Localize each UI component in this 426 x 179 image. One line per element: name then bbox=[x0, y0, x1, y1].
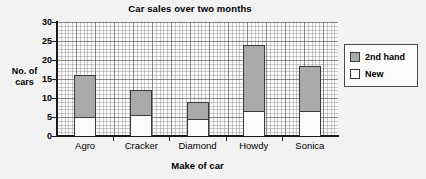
legend-item-2nd-hand[interactable]: 2nd hand bbox=[350, 50, 413, 64]
bar-segment-second-hand-diamond bbox=[187, 102, 209, 119]
x-tick-label-diamond: Diamond bbox=[170, 140, 226, 152]
y-tick-label-0: 0 bbox=[32, 132, 52, 141]
y-tick-label-10: 10 bbox=[32, 94, 52, 103]
y-tick-label-20: 20 bbox=[32, 56, 52, 65]
bar-stack bbox=[299, 66, 321, 136]
bar-group-diamond bbox=[187, 22, 209, 136]
x-tick-mark-4 bbox=[282, 137, 283, 141]
x-tick-mark-3 bbox=[226, 137, 227, 141]
x-tick-label-howdy: Howdy bbox=[226, 140, 282, 152]
legend-label: New bbox=[365, 69, 384, 79]
bar-group-cracker bbox=[130, 22, 152, 136]
bar-stack bbox=[74, 75, 96, 136]
y-tick-mark-5 bbox=[52, 117, 57, 118]
x-tick-mark-1 bbox=[113, 137, 114, 141]
x-axis-title: Make of car bbox=[57, 160, 338, 171]
y-tick-mark-20 bbox=[52, 60, 57, 61]
bar-segment-new-cracker bbox=[130, 115, 152, 136]
legend-swatch-icon bbox=[350, 69, 360, 79]
y-tick-mark-15 bbox=[52, 79, 57, 80]
bar-stack bbox=[243, 45, 265, 136]
bar-segment-new-diamond bbox=[187, 119, 209, 136]
y-tick-label-25: 25 bbox=[32, 37, 52, 46]
legend: 2nd handNew bbox=[344, 44, 418, 87]
bar-segment-second-hand-agro bbox=[74, 75, 96, 117]
bar-segment-second-hand-cracker bbox=[130, 90, 152, 115]
x-tick-label-sonica: Sonica bbox=[282, 140, 338, 152]
y-tick-mark-25 bbox=[52, 41, 57, 42]
bar-segment-second-hand-sonica bbox=[299, 66, 321, 112]
bar-segment-new-agro bbox=[74, 117, 96, 136]
legend-item-new[interactable]: New bbox=[350, 67, 413, 81]
y-tick-label-30: 30 bbox=[32, 18, 52, 27]
legend-label: 2nd hand bbox=[365, 52, 405, 62]
bar-segment-second-hand-howdy bbox=[243, 45, 265, 112]
bar-group-agro bbox=[74, 22, 96, 136]
y-tick-mark-30 bbox=[52, 22, 57, 23]
y-tick-mark-10 bbox=[52, 98, 57, 99]
bar-segment-new-howdy bbox=[243, 111, 265, 136]
chart-title: Car sales over two months bbox=[60, 3, 320, 14]
x-tick-label-agro: Agro bbox=[57, 140, 113, 152]
y-tick-mark-0 bbox=[52, 136, 57, 137]
bar-group-howdy bbox=[243, 22, 265, 136]
y-tick-label-5: 5 bbox=[32, 113, 52, 122]
legend-swatch-icon bbox=[350, 52, 360, 62]
bar-group-sonica bbox=[299, 22, 321, 136]
chart-page: Car sales over two months No. of cars 05… bbox=[0, 0, 426, 179]
y-tick-label-15: 15 bbox=[32, 75, 52, 84]
bar-stack bbox=[130, 90, 152, 136]
bar-stack bbox=[187, 102, 209, 136]
bar-segment-new-sonica bbox=[299, 111, 321, 136]
x-tick-mark-2 bbox=[169, 137, 170, 141]
y-axis-title-line2: cars bbox=[15, 77, 34, 87]
x-tick-label-cracker: Cracker bbox=[113, 140, 169, 152]
